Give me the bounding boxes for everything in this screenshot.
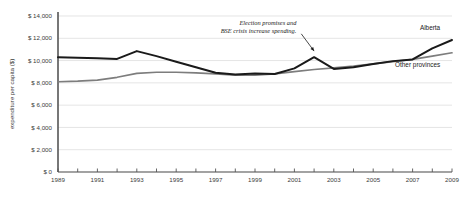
line-chart: $ 0$ 2,000$ 4,000$ 6,000$ 8,000$ 10,000$…	[0, 0, 460, 200]
x-tick-label: 1999	[248, 176, 262, 183]
y-tick-label: $ 4,000	[31, 124, 52, 131]
annotations: Election promises andBSE crisis increase…	[221, 19, 314, 51]
x-tick-label: 2009	[445, 176, 459, 183]
y-tick-label: $ 6,000	[31, 101, 52, 108]
y-axis-ticks: $ 0$ 2,000$ 4,000$ 6,000$ 8,000$ 10,000$…	[28, 12, 53, 175]
x-tick-label: 1989	[51, 176, 65, 183]
axis-lines	[58, 12, 452, 172]
y-tick-label: $ 12,000	[28, 34, 53, 41]
annotation-text-line: BSE crisis increase spending.	[221, 27, 297, 34]
y-tick-label: $ 0	[43, 168, 52, 175]
x-axis-ticks: 1989199119931995199719992001200320052007…	[51, 169, 459, 184]
x-tick-label: 2005	[366, 176, 380, 183]
y-axis-title: expenditure per capita ($)	[8, 59, 15, 130]
y-tick-label: $ 10,000	[28, 57, 53, 64]
series-labels: AlbertaOther provinces	[395, 24, 441, 69]
x-tick-label: 2003	[327, 176, 341, 183]
y-tick-label: $ 2,000	[31, 146, 52, 153]
series-label-other-provinces: Other provinces	[395, 61, 440, 69]
annotation-text-line: Election promises and	[238, 19, 297, 26]
y-tick-label: $ 14,000	[28, 12, 53, 19]
chart-container: $ 0$ 2,000$ 4,000$ 6,000$ 8,000$ 10,000$…	[0, 0, 460, 200]
x-tick-label: 2007	[406, 176, 420, 183]
series-line-alberta	[58, 40, 452, 75]
x-tick-label: 1997	[209, 176, 223, 183]
annotation-arrow-head	[310, 47, 314, 51]
x-tick-label: 1991	[91, 176, 105, 183]
series-label-alberta: Alberta	[420, 24, 441, 31]
x-tick-label: 1995	[169, 176, 183, 183]
x-tick-label: 2001	[288, 176, 302, 183]
grid-lines	[58, 16, 452, 172]
x-tick-label: 1993	[130, 176, 144, 183]
series-line-other-provinces	[58, 53, 452, 82]
y-tick-label: $ 8,000	[31, 79, 52, 86]
y-axis-title-text: expenditure per capita ($)	[8, 59, 15, 130]
